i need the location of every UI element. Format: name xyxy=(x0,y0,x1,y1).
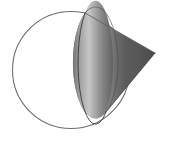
cone-circle-figure: Cone inscribed in circle A shaded three-… xyxy=(0,0,169,141)
figure-svg xyxy=(0,0,169,141)
